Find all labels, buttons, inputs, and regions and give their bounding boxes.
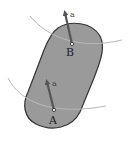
vector-a-label: a — [52, 79, 57, 88]
point-a-marker — [52, 108, 55, 111]
diagram-svg: B a A a — [0, 0, 128, 142]
point-a-label: A — [48, 114, 58, 127]
vector-b-label: a — [70, 10, 75, 19]
rigid-body-diagram: B a A a — [0, 0, 128, 142]
point-b-label: B — [66, 46, 74, 59]
